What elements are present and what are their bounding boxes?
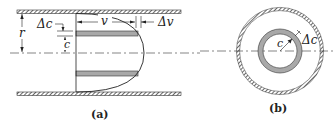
panel-a: r Δc c v Δv (a) xyxy=(10,10,200,121)
pipe-wall-top xyxy=(17,10,181,14)
shell-band-bottom xyxy=(76,71,138,76)
caption-b: (b) xyxy=(269,102,287,115)
arrow-down-icon xyxy=(20,47,23,52)
label-delta-c-b: Δc xyxy=(301,33,318,47)
shell-band-top xyxy=(76,31,138,36)
arrow-right-icon xyxy=(130,20,135,23)
arrow-left-icon xyxy=(77,20,82,23)
arrow-left-icon xyxy=(141,20,146,23)
pipe-wall-bottom xyxy=(17,92,181,96)
pipe-flow-diagram: r Δc c v Δv (a) xyxy=(0,0,335,133)
label-delta-v: Δv xyxy=(157,15,174,29)
arrow-up-icon xyxy=(20,14,23,19)
arrow-down-icon xyxy=(62,27,65,31)
label-delta-c-a: Δc xyxy=(36,17,53,31)
delta-c-tick-b xyxy=(295,31,300,36)
label-c-b: c xyxy=(277,37,283,50)
panel-b: c Δc (b) xyxy=(200,7,335,115)
caption-a: (a) xyxy=(91,108,109,121)
label-v: v xyxy=(101,14,108,28)
label-c-a: c xyxy=(64,38,70,51)
